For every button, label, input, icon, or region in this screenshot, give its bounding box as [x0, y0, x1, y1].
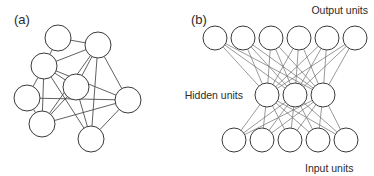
network-node-output: [287, 26, 311, 50]
network-node-input: [250, 128, 274, 152]
network-node-input: [278, 128, 302, 152]
network-node: [29, 111, 55, 137]
network-edge: [100, 109, 119, 129]
network-node: [14, 85, 40, 111]
network-edge: [304, 49, 319, 84]
network-node-output: [343, 26, 367, 50]
network-edge: [324, 50, 326, 83]
network-node: [115, 87, 141, 113]
network-edge: [51, 97, 67, 115]
panel-a-nodes: [14, 25, 141, 152]
network-edge: [104, 56, 122, 88]
network-node-input: [222, 128, 246, 152]
network-node: [78, 126, 104, 152]
network-node: [31, 53, 57, 79]
network-node-input: [306, 128, 330, 152]
network-edge: [71, 40, 85, 43]
network-node-output: [203, 26, 227, 50]
network-edge: [92, 58, 97, 126]
network-node-hidden: [255, 83, 279, 107]
network-node-output: [259, 26, 283, 50]
network-node-hidden: [311, 83, 335, 107]
network-node: [63, 74, 89, 100]
network-edge: [34, 109, 36, 112]
hidden-units-label: Hidden units: [185, 89, 243, 101]
neural-network-figure: (a) (b) Output units Hidden units Input …: [0, 0, 374, 176]
network-node-output: [231, 26, 255, 50]
network-edge: [33, 77, 38, 86]
network-edge: [56, 50, 86, 62]
panel-a-label: (a): [14, 12, 30, 27]
network-edge: [241, 105, 260, 131]
network-edge: [279, 47, 315, 86]
figure-canvas: (a) (b) Output units Hidden units Input …: [0, 0, 374, 176]
output-units-label: Output units: [311, 4, 368, 16]
network-node-output: [315, 26, 339, 50]
network-edge: [50, 50, 52, 55]
network-node-input: [334, 128, 358, 152]
network-node-hidden: [283, 83, 307, 107]
network-node: [85, 32, 111, 58]
network-edge: [329, 48, 349, 84]
network-node: [45, 25, 71, 51]
panel-b-label: (b): [191, 12, 207, 27]
network-edge: [276, 103, 309, 132]
network-edge: [223, 47, 259, 86]
input-units-label: Input units: [305, 162, 353, 174]
network-edge: [42, 79, 43, 111]
network-edge: [304, 103, 337, 132]
